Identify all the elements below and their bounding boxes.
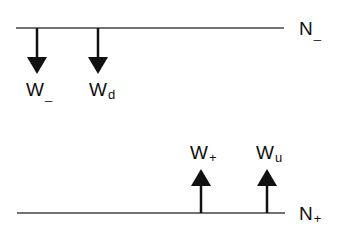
arrow-label-main: W [190, 142, 208, 163]
level-label-sub: _ [314, 26, 321, 41]
level-label-n-plus: N+ [299, 204, 321, 225]
arrow-label-sub: _ [45, 87, 52, 102]
arrow-label-sub: u [275, 150, 282, 165]
arrow-label-w-minus: W_ [26, 80, 52, 101]
arrow-label-main: W [256, 142, 274, 163]
level-label-n-minus: N_ [299, 19, 321, 40]
arrow-label-main: W [26, 79, 44, 100]
arrow-label-sub: + [209, 150, 217, 165]
arrow-label-w-d: Wd [89, 80, 115, 101]
level-label-main: N [299, 18, 313, 39]
level-label-sub: + [314, 211, 322, 226]
arrow-label-sub: d [108, 87, 115, 102]
level-label-main: N [299, 203, 313, 224]
arrow-label-main: W [89, 79, 107, 100]
arrow-down-w-d [88, 28, 108, 74]
arrow-label-w-plus: W+ [190, 143, 217, 164]
transition-diagram [0, 0, 345, 234]
arrow-label-w-u: Wu [256, 143, 282, 164]
arrow-up-w-u [257, 169, 277, 213]
arrow-up-w-plus [191, 169, 211, 213]
arrow-down-w-minus [27, 28, 47, 74]
